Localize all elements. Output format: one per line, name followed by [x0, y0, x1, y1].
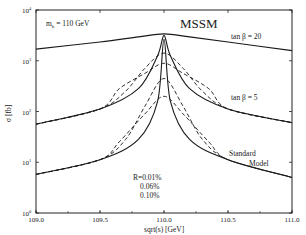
- x-axis-label: sqrt(s) [GeV]: [144, 225, 184, 234]
- resolution-line2: 0.06%: [140, 182, 159, 191]
- x-tick-label: 111.0: [284, 216, 300, 224]
- y-tick-label: 104: [22, 6, 32, 15]
- chart-title: MSSM: [180, 16, 218, 31]
- mass-annotation: mh = 110 GeV: [46, 19, 90, 29]
- y-tick-label: 101: [22, 158, 31, 167]
- label-tanb20: tan β = 20: [231, 32, 262, 41]
- x-tick-label: 109.5: [92, 216, 108, 224]
- x-tick-label: 110.5: [220, 216, 236, 224]
- y-tick-label: 102: [22, 108, 31, 117]
- curve-line: [36, 35, 292, 124]
- curve-line: [36, 53, 292, 124]
- label-sm-line2: Model: [249, 159, 269, 168]
- y-tick-label: 103: [22, 57, 32, 66]
- x-tick-label: 110.0: [156, 216, 172, 224]
- resolution-line3: 0.10%: [140, 191, 159, 200]
- x-tick-label: 109.0: [28, 216, 44, 224]
- label-sm-line1: Standard: [229, 149, 256, 158]
- label-tanb5: tan β = 5: [231, 93, 258, 102]
- cross-section-chart: 109.0109.5110.0110.5111.0 10410310210110…: [0, 0, 306, 235]
- resolution-line1: R=0.01%: [133, 173, 162, 182]
- y-axis-label: σ [fb]: [4, 105, 13, 122]
